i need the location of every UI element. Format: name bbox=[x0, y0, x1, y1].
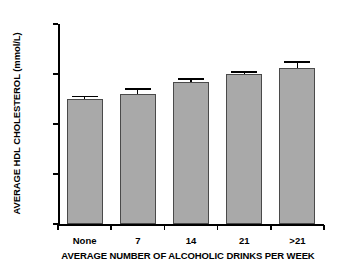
x-tick-mark bbox=[110, 225, 112, 230]
x-tick-label: 21 bbox=[214, 236, 274, 246]
x-axis-line bbox=[58, 224, 324, 226]
error-bar-cap bbox=[72, 96, 98, 98]
x-tick-mark bbox=[270, 225, 272, 230]
error-bar-stem bbox=[297, 62, 298, 68]
chart-container: AVERAGE HDL CHOLESTEROL (mmol/L) 00.40.8… bbox=[0, 0, 340, 267]
x-tick-label: 7 bbox=[108, 236, 168, 246]
y-tick-mark bbox=[53, 123, 58, 125]
x-tick-label: >21 bbox=[267, 236, 327, 246]
y-tick-mark bbox=[53, 73, 58, 75]
x-tick-mark bbox=[217, 225, 219, 230]
x-tick-mark bbox=[323, 225, 325, 230]
bar bbox=[67, 99, 103, 224]
error-bar-cap bbox=[125, 88, 151, 90]
bar bbox=[279, 68, 315, 224]
bar bbox=[173, 82, 209, 225]
x-tick-mark bbox=[164, 225, 166, 230]
error-bar-cap bbox=[178, 78, 204, 80]
bar bbox=[226, 74, 262, 224]
y-tick-mark bbox=[53, 23, 58, 25]
x-tick-mark bbox=[57, 225, 59, 230]
error-bar-cap bbox=[284, 61, 310, 63]
x-tick-label: 14 bbox=[161, 236, 221, 246]
x-tick-label: None bbox=[55, 236, 115, 246]
bar bbox=[120, 94, 156, 224]
y-axis-line bbox=[58, 24, 60, 225]
error-bar-cap bbox=[231, 71, 257, 73]
y-tick-mark bbox=[53, 173, 58, 175]
plot-area: 00.40.81.21.6 None71421>21 bbox=[58, 24, 324, 225]
y-axis-title: AVERAGE HDL CHOLESTEROL (mmol/L) bbox=[11, 19, 22, 229]
x-axis-title: AVERAGE NUMBER OF ALCOHOLIC DRINKS PER W… bbox=[40, 250, 336, 261]
